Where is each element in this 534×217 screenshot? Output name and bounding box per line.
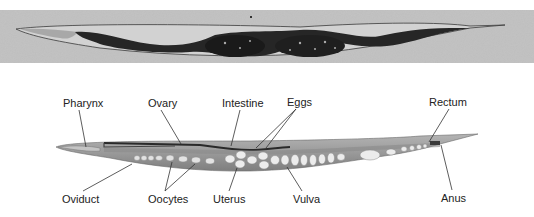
label-ovary: Ovary — [148, 97, 177, 109]
label-rectum: Rectum — [429, 96, 467, 108]
label-intestine: Intestine — [222, 97, 264, 109]
label-uterus: Uterus — [213, 193, 245, 205]
label-oocytes: Oocytes — [148, 193, 188, 205]
rectum-shape — [430, 141, 440, 145]
label-eggs: Eggs — [287, 96, 312, 108]
label-vulva: Vulva — [293, 193, 320, 205]
label-oviduct: Oviduct — [62, 193, 99, 205]
label-anus: Anus — [441, 192, 466, 204]
label-pharynx: Pharynx — [63, 97, 103, 109]
